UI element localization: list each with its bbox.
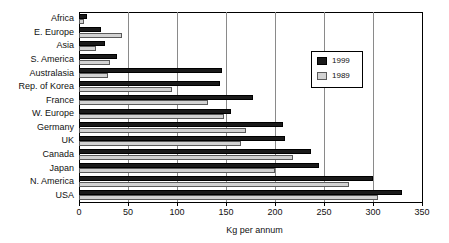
light-swatch-icon [317,72,327,80]
x-tick-label: 350 [402,207,442,217]
bar-row: Germany [0,121,449,135]
bar-1999 [79,176,373,181]
x-tick-label: 250 [304,207,344,217]
category-label: S. America [0,55,74,64]
bar-1999 [79,163,319,168]
bar-1999 [79,95,253,100]
x-tick [79,202,80,206]
category-label: W. Europe [0,109,74,118]
bar-1989 [79,141,241,146]
bar-row: E. Europe [0,26,449,40]
x-tick-label: 50 [108,207,148,217]
chart-legend: 1999 1989 [311,51,363,88]
bar-1989 [79,33,122,38]
bar-1999 [79,122,283,127]
category-label: Australasia [0,69,74,78]
bar-row: N. America [0,175,449,189]
x-tick-label: 200 [255,207,295,217]
category-label: Japan [0,164,74,173]
x-tick [177,202,178,206]
x-tick [275,202,276,206]
bar-1999 [79,136,285,141]
bar-row: Canada [0,148,449,162]
category-label: UK [0,136,74,145]
category-label: Germany [0,123,74,132]
bar-1989 [79,46,96,51]
bar-1989 [79,114,224,119]
category-label: E. Europe [0,28,74,37]
bar-row: Asia [0,39,449,53]
bar-1989 [79,155,293,160]
bar-1989 [79,182,349,187]
bar-row: Africa [0,12,449,26]
bar-1989 [79,60,110,65]
bar-1999 [79,149,311,154]
bar-1999 [79,81,220,86]
bar-chart: 050100150200250300350 AfricaE. EuropeAsi… [0,0,449,243]
legend-label-1999: 1999 [332,57,350,65]
x-tick-label: 150 [206,207,246,217]
category-label: Canada [0,150,74,159]
bar-row: France [0,93,449,107]
dark-swatch-icon [317,57,327,65]
x-tick-label: 300 [353,207,393,217]
x-tick [226,202,227,206]
bar-1989 [79,19,84,24]
category-label: Africa [0,14,74,23]
bar-row: Japan [0,161,449,175]
bar-1999 [79,27,101,32]
x-tick [128,202,129,206]
bar-1999 [79,41,105,46]
bar-row: USA [0,188,449,202]
legend-item-1999: 1999 [317,57,350,65]
category-label: France [0,96,74,105]
category-label: Asia [0,41,74,50]
x-tick [373,202,374,206]
bar-1999 [79,109,231,114]
x-tick-label: 0 [59,207,99,217]
category-label: USA [0,191,74,200]
category-label: Rep. of Korea [0,82,74,91]
bar-1989 [79,73,108,78]
bar-1989 [79,87,172,92]
x-axis-title: Kg per annum [0,225,449,235]
bar-row: S. America [0,53,449,67]
bar-1999 [79,68,222,73]
bar-row: Rep. of Korea [0,80,449,94]
legend-label-1989: 1989 [332,72,350,80]
bar-1999 [79,54,117,59]
x-tick-label: 100 [157,207,197,217]
x-tick [324,202,325,206]
category-label: N. America [0,177,74,186]
bar-1989 [79,195,378,200]
legend-item-1989: 1989 [317,72,350,80]
x-axis-line [79,202,423,203]
bar-1999 [79,190,402,195]
bar-1999 [79,14,87,19]
x-tick [422,202,423,206]
bar-1989 [79,168,275,173]
bar-row: Australasia [0,66,449,80]
bar-1989 [79,100,208,105]
bar-row: W. Europe [0,107,449,121]
bar-1989 [79,128,246,133]
bar-row: UK [0,134,449,148]
